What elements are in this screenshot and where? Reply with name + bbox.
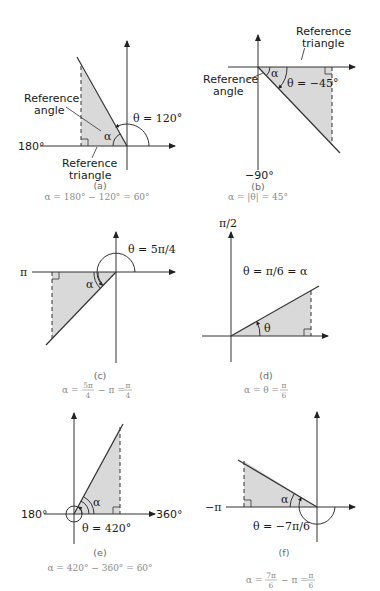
alpha-label: α: [281, 493, 289, 506]
axis-label-pi: π: [20, 266, 27, 279]
caption-formula: α = 7π 6 − π = π 6: [246, 571, 315, 590]
alpha-label: α: [93, 496, 101, 509]
axis-label-180: 180°: [18, 140, 45, 153]
svg-text:6: 6: [269, 581, 274, 590]
panel-id: (a): [93, 180, 106, 191]
panel-b: Reference triangle Reference angle α θ =…: [203, 25, 355, 203]
panel-id: (c): [94, 370, 107, 381]
ref-angle-label-2: angle: [34, 104, 65, 117]
axis-label-360: 360°: [156, 508, 183, 521]
svg-text:− π =: − π =: [98, 385, 125, 395]
alpha-label: α: [271, 67, 279, 80]
caption-formula: α = 5π 4 − π = π 4: [62, 381, 132, 400]
panel-e: 180° 360° α θ = 420° (e) α = 420° − 360°…: [21, 413, 183, 573]
alpha-label: α: [86, 278, 94, 291]
svg-text:4: 4: [126, 391, 131, 400]
svg-text:α =: α =: [246, 575, 262, 585]
svg-text:6: 6: [282, 391, 287, 400]
axis-label-pi-over-2: π/2: [219, 217, 237, 230]
caption-formula: α = |θ| = 45°: [228, 192, 288, 203]
panel-id: (f): [279, 547, 290, 558]
axis-label-180: 180°: [21, 508, 48, 521]
panel-f: −π α θ = −7π/6 (f) α = 7π 6 − π = π 6: [205, 412, 355, 590]
panel-d: π/2 θ = π/6 = α θ (d) α = θ = π 6: [202, 217, 328, 400]
panel-id: (d): [259, 370, 272, 381]
svg-text:− π =: − π =: [281, 575, 308, 585]
theta-label: θ = 5π/4: [128, 243, 176, 256]
theta-symbol: θ: [264, 322, 271, 335]
svg-text:π: π: [282, 381, 287, 390]
svg-text:7π: 7π: [266, 571, 276, 580]
theta-label: θ = −7π/6: [253, 520, 310, 533]
panel-id: (e): [93, 547, 106, 558]
theta-label: θ = 420°: [82, 522, 131, 535]
svg-text:4: 4: [86, 391, 91, 400]
alpha-label: α: [104, 130, 112, 143]
panel-a: Reference angle θ = 120° α 180° Referenc…: [18, 41, 182, 202]
theta-label: θ = 120°: [133, 112, 182, 125]
caption-formula: α = 420° − 360° = 60°: [47, 563, 152, 573]
svg-text:5π: 5π: [83, 381, 93, 390]
theta-label: θ = π/6 = α: [243, 265, 308, 278]
panel-c: θ = 5π/4 π α (c) α = 5π 4 − π = π 4: [20, 232, 176, 400]
axis-label-neg-pi: −π: [205, 501, 221, 514]
svg-text:α =: α =: [62, 385, 78, 395]
caption-formula: α = θ = π 6: [244, 381, 288, 400]
svg-text:π: π: [309, 571, 314, 580]
panel-id: (b): [251, 181, 264, 192]
caption-formula: α = 180° − 120° = 60°: [44, 192, 149, 202]
ref-angle-label-2: angle: [213, 85, 244, 98]
theta-label: θ = −45°: [287, 77, 339, 90]
svg-text:α = θ =: α = θ =: [244, 385, 279, 395]
ref-triangle-label-2: triangle: [302, 37, 345, 50]
svg-text:π: π: [126, 381, 131, 390]
svg-text:6: 6: [309, 581, 314, 590]
